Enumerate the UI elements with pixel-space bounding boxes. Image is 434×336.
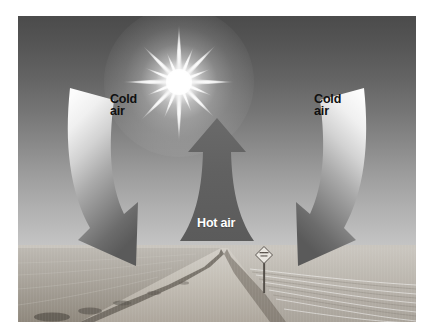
ground-landscape bbox=[18, 245, 416, 322]
road-scene bbox=[18, 245, 416, 322]
illustration-page: Cold air Cold air Hot air bbox=[0, 0, 434, 336]
sun bbox=[119, 22, 239, 142]
label-hot-air: Hot air bbox=[197, 217, 235, 230]
label-cold-air-right: Cold air bbox=[314, 93, 341, 119]
convection-figure: Cold air Cold air Hot air bbox=[18, 16, 416, 322]
faint-header-text bbox=[12, 1, 124, 10]
label-cold-air-left: Cold air bbox=[110, 93, 137, 119]
sun-core bbox=[166, 69, 192, 95]
